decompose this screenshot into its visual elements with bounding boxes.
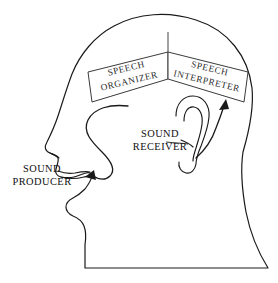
sound-producer-label-line2: PRODUCER (12, 176, 71, 187)
head-profile-diagram: SPEECH ORGANIZER SPEECH INTERPRETER SOUN… (0, 0, 278, 283)
speech-diagram-root: SPEECH ORGANIZER SPEECH INTERPRETER SOUN… (0, 0, 278, 283)
sound-receiver-label-line1: SOUND (141, 128, 179, 139)
sound-producer-label-line1: SOUND (23, 163, 61, 174)
